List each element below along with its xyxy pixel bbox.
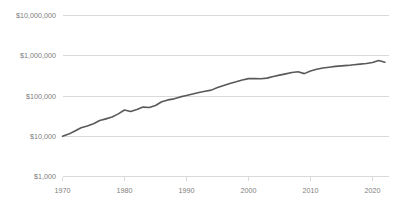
data-series-line [63,61,385,137]
x-axis-label-1970: 1970 [43,186,83,195]
y-axis-label-100000: $100,000 [0,92,56,101]
x-axis-label-1990: 1990 [167,186,207,195]
gridlines-group [63,16,389,137]
chart-container: $10,000,000 $1,000,000 $100,000 $10,000 … [0,0,404,209]
x-axis-label-2020: 2020 [353,186,393,195]
y-axis-label-1000000: $1,000,000 [0,51,56,60]
y-axis-label-1000: $1,000 [0,172,56,181]
axis-group [63,177,389,181]
y-axis-label-10000: $10,000 [0,132,56,141]
y-axis-label-10000000: $10,000,000 [0,11,56,20]
x-axis-label-1980: 1980 [105,186,145,195]
x-axis-label-2010: 2010 [291,186,331,195]
chart-plot-area [0,0,404,209]
x-axis-label-2000: 2000 [229,186,269,195]
